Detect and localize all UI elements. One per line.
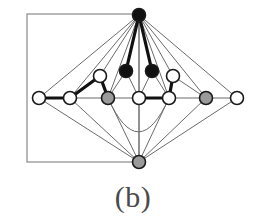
graph-vertex-spine-6: spine-6 bbox=[200, 92, 213, 105]
graph-vertex-spine-5: spine-5 bbox=[163, 92, 176, 105]
graph-vertex-upper-left: upper-left bbox=[94, 70, 107, 83]
graph-vertex-upper-right: upper-right bbox=[167, 70, 180, 83]
graph-vertex-spine-3: spine-3 bbox=[102, 92, 115, 105]
graph-vertex-spine-7: spine-7 bbox=[231, 92, 244, 105]
graph-vertex-spine-4: spine-4 bbox=[133, 92, 146, 105]
bold-edge-layer bbox=[39, 15, 173, 98]
graph-vertex-bottom-apex: bottom-apex bbox=[133, 156, 146, 169]
graph-edge bbox=[139, 98, 206, 162]
graph-vertex-upper-mid-right: upper-mid-right bbox=[146, 65, 159, 78]
graph-vertex-upper-mid-left: upper-mid-left bbox=[120, 65, 133, 78]
vertex-layer: top-apexupper-leftupper-mid-leftupper-mi… bbox=[33, 9, 244, 169]
graph-edge bbox=[70, 98, 139, 162]
graph-vertex-spine-2: spine-2 bbox=[64, 92, 77, 105]
graph-vertex-spine-1: spine-1 bbox=[33, 92, 46, 105]
figure-root: top-apexupper-leftupper-mid-leftupper-mi… bbox=[0, 0, 266, 222]
figure-caption: (b) bbox=[0, 178, 266, 216]
thin-edge-layer bbox=[39, 15, 237, 162]
graph-vertex-top-apex: top-apex bbox=[133, 9, 146, 22]
